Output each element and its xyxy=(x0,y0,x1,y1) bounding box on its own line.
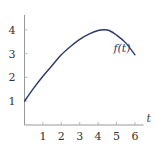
x-tick-label: 2 xyxy=(58,130,65,143)
chart: 1234561234tf(t) xyxy=(0,0,155,153)
curve-label-f-t: f(t) xyxy=(112,42,130,55)
y-tick-label: 1 xyxy=(9,95,16,108)
axes xyxy=(25,15,144,125)
y-tick-label: 3 xyxy=(9,48,16,61)
series xyxy=(25,30,135,101)
x-axis-label: t xyxy=(146,112,151,125)
x-tick-label: 1 xyxy=(39,130,46,143)
x-tick-label: 5 xyxy=(113,130,120,143)
y-tick-label: 2 xyxy=(9,71,16,84)
x-tick-label: 3 xyxy=(76,130,83,143)
y-tick-label: 4 xyxy=(9,24,16,37)
x-tick-label: 4 xyxy=(95,130,102,143)
x-tick-label: 6 xyxy=(131,130,138,143)
series-line-f-t xyxy=(25,30,135,101)
